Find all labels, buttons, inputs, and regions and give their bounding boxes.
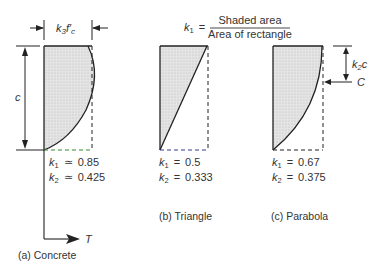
depth-arrow-up-icon xyxy=(22,47,28,56)
depth-arrow-down-icon xyxy=(22,140,28,149)
offset-label: k2c xyxy=(352,58,368,72)
k1-value: k1=0.5 xyxy=(159,156,200,170)
formula-denominator: Area of rectangle xyxy=(208,28,292,40)
parabola-fill xyxy=(273,46,322,150)
caption-parabola: (c) Parabola xyxy=(271,210,328,222)
width-label: k3f′c xyxy=(56,22,75,36)
k1-value: k1≃0.85 xyxy=(49,156,99,170)
panel-parabola: k2c C k1=0.67 k2=0.375 (c) Parabola xyxy=(271,46,368,222)
caption-triangle: (b) Triangle xyxy=(159,210,212,222)
axis-label: T xyxy=(85,233,93,245)
k2-value: k2=0.375 xyxy=(272,171,326,185)
concrete-stress-fill xyxy=(44,46,95,150)
formula-numerator: Shaded area xyxy=(219,14,283,26)
offset-arrow-up-icon xyxy=(343,47,349,54)
k2-value: k2=0.333 xyxy=(159,171,213,185)
depth-label: c xyxy=(15,91,21,103)
formula-lhs: k1= xyxy=(184,21,205,35)
resultant-arrow-icon xyxy=(324,79,331,85)
k1-formula: k1= Shaded area Area of rectangle xyxy=(184,14,292,40)
resultant-label: C xyxy=(357,76,365,88)
k1-value: k1=0.67 xyxy=(272,156,320,170)
panel-concrete: k3f′c c T k1≃0.85 k2≃0.425 (a) Concrete xyxy=(15,20,108,261)
stress-block-diagram: k3f′c c T k1≃0.85 k2≃0.425 (a) Concrete … xyxy=(0,0,380,265)
caption-concrete: (a) Concrete xyxy=(18,249,77,261)
k2-value: k2≃0.425 xyxy=(49,171,105,185)
offset-arrow-down-icon xyxy=(343,74,349,81)
panel-triangle: k1=0.5 k2=0.333 (b) Triangle xyxy=(159,46,213,222)
